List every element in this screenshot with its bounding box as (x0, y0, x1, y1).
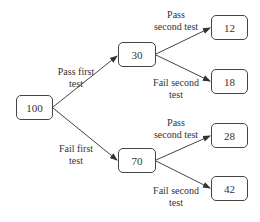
node-pass-pass-value: 12 (224, 22, 235, 34)
label-upper-fail-second: Fail second test (146, 77, 206, 101)
label-lower-pass-second: Pass second test (146, 117, 206, 141)
node-pass-fail: 18 (211, 69, 248, 94)
node-pass-fail-value: 18 (224, 76, 235, 88)
label-line: Pass first (56, 66, 96, 78)
node-pass-pass: 12 (211, 15, 248, 40)
node-fail-first: 70 (118, 148, 156, 173)
node-fail-pass-value: 28 (224, 130, 235, 142)
label-fail-first: Fail first test (56, 143, 96, 167)
node-fail-pass: 28 (211, 123, 248, 148)
label-line: Pass (146, 9, 206, 21)
label-upper-pass-second: Pass second test (146, 9, 206, 33)
label-line: Fail second (146, 77, 206, 89)
label-line: Fail first (56, 143, 96, 155)
node-fail-fail-value: 42 (224, 183, 235, 195)
label-line: second test (146, 129, 206, 141)
edge-70-to-42 (156, 161, 210, 188)
label-pass-first: Pass first test (56, 66, 96, 90)
node-root-value: 100 (26, 102, 43, 114)
label-line: test (146, 89, 206, 101)
node-root: 100 (16, 95, 53, 120)
label-line: Pass (146, 117, 206, 129)
node-fail-first-value: 70 (132, 155, 143, 167)
label-lower-fail-second: Fail second test (146, 185, 206, 209)
label-line: test (56, 155, 96, 167)
node-fail-fail: 42 (211, 176, 248, 201)
label-line: Fail second (146, 185, 206, 197)
node-pass-first-value: 30 (132, 49, 143, 61)
label-line: test (146, 197, 206, 209)
label-line: test (56, 78, 96, 90)
node-pass-first: 30 (118, 42, 156, 67)
label-line: second test (146, 21, 206, 33)
